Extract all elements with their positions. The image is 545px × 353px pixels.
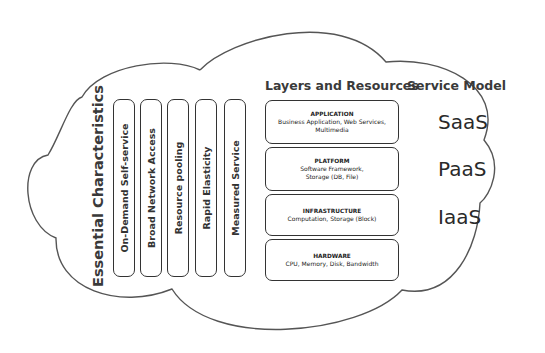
layer-detail: Software Framework, Storage (DB, File) — [292, 165, 372, 181]
characteristic-label: Measured Service — [230, 140, 241, 235]
layer-application: APPLICATION Business Application, Web Se… — [265, 100, 399, 144]
service-model-paas: PaaS — [438, 157, 486, 181]
layer-name: HARDWARE — [313, 252, 351, 260]
layer-platform: PLATFORM Software Framework, Storage (DB… — [265, 147, 399, 191]
layer-name: INFRASTRUCTURE — [303, 207, 362, 215]
characteristic-label: Resource pooling — [173, 142, 184, 235]
characteristic-on-demand-self-service: On-Demand Self-service — [113, 99, 135, 277]
characteristic-rapid-elasticity: Rapid Elasticity — [195, 99, 217, 277]
characteristic-label: Broad Network Access — [146, 128, 157, 248]
layer-detail: CPU, Memory, Disk, Bandwidth — [286, 260, 379, 268]
characteristic-label: On-Demand Self-service — [119, 123, 130, 252]
characteristic-measured-service: Measured Service — [224, 99, 246, 277]
layer-infrastructure: INFRASTRUCTURE Computation, Storage (Blo… — [265, 194, 399, 236]
essential-characteristics-title: Essential Characteristics — [90, 85, 106, 287]
layer-hardware: HARDWARE CPU, Memory, Disk, Bandwidth — [265, 239, 399, 281]
characteristic-resource-pooling: Resource pooling — [167, 99, 189, 277]
layers-resources-header: Layers and Resources — [265, 78, 419, 93]
service-model-header: Service Model — [407, 78, 506, 93]
layer-detail: Business Application, Web Services, Mult… — [277, 118, 387, 134]
layer-name: APPLICATION — [310, 110, 353, 118]
service-model-iaas: IaaS — [438, 205, 481, 229]
layer-detail: Computation, Storage (Block) — [288, 215, 377, 223]
characteristic-label: Rapid Elasticity — [201, 146, 212, 229]
service-model-saas: SaaS — [438, 110, 488, 134]
characteristic-broad-network-access: Broad Network Access — [140, 99, 162, 277]
layer-name: PLATFORM — [314, 157, 349, 165]
